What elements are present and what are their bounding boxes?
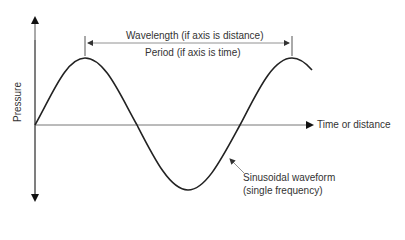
waveform-label-line2: (single frequency): [243, 185, 322, 197]
waveform-label-line1: Sinusoidal waveform: [243, 172, 335, 184]
period-label: Period (if axis is time): [145, 47, 241, 59]
waveform-leader: [230, 159, 244, 173]
wavelength-label: Wavelength (if axis is distance): [126, 30, 263, 42]
x-axis-label: Time or distance: [317, 119, 391, 131]
sine-curve: [35, 58, 312, 190]
y-axis-label: Pressure: [12, 82, 24, 122]
